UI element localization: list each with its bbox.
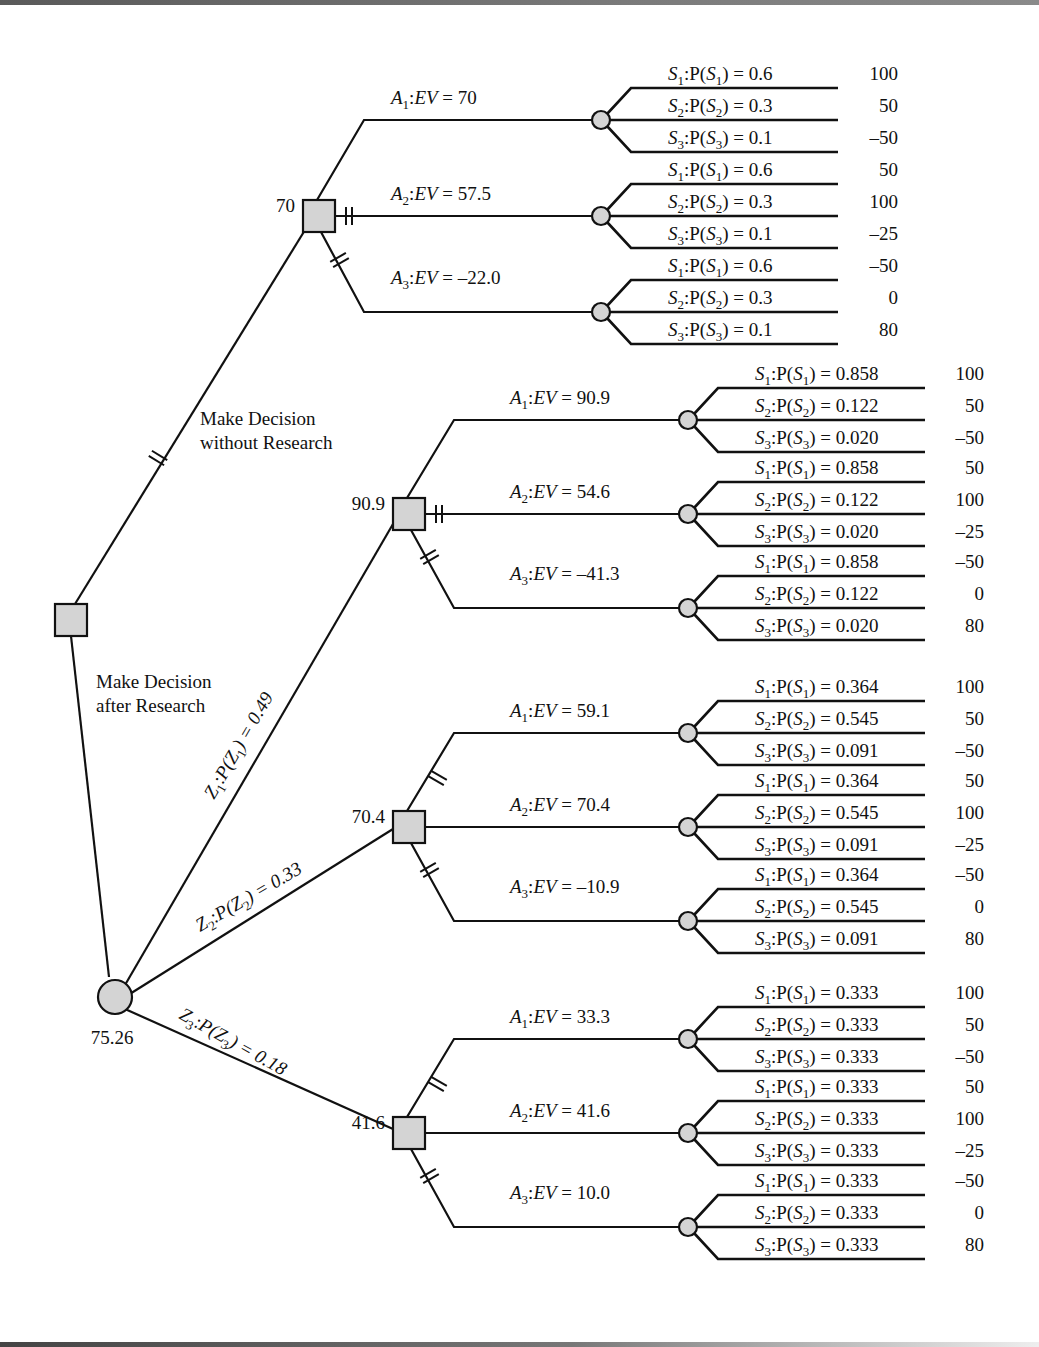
state-probability-label: S2:P(S2) = 0.333 [755,1108,878,1133]
node-value-label: 70 [276,195,295,216]
node-value-label: 41.6 [352,1112,385,1133]
alternative-ev-label: A3:EV = –41.3 [508,563,620,588]
alternative-ev-label: A1:EV = 59.1 [508,700,610,725]
state-probability-label: S1:P(S1) = 0.333 [755,982,878,1007]
state-chance-node [679,411,697,429]
payoff-value: –25 [955,834,985,855]
node-value-label: 90.9 [352,493,385,514]
alternative-ev-label: A2:EV = 57.5 [389,183,491,208]
state-probability-label: S3:P(S3) = 0.091 [755,928,878,953]
indication-branch [125,829,393,997]
branch-label-after-research: after Research [96,695,206,716]
state-chance-node [679,1030,697,1048]
payoff-value: 80 [965,928,984,949]
payoff-value: –50 [955,427,985,448]
state-probability-label: S2:P(S2) = 0.333 [755,1202,878,1227]
state-probability-label: S3:P(S3) = 0.333 [755,1046,878,1071]
payoff-value: 100 [870,63,899,84]
payoff-value: –50 [955,864,985,885]
state-chance-node [679,1124,697,1142]
payoff-value: 0 [975,896,985,917]
root-decision-node [55,604,87,636]
state-probability-label: S1:P(S1) = 0.364 [755,770,879,795]
payoff-value: 50 [879,95,898,116]
state-probability-label: S1:P(S1) = 0.364 [755,864,879,889]
state-probability-label: S3:P(S3) = 0.1 [668,223,772,248]
state-chance-node [679,724,697,742]
state-probability-label: S1:P(S1) = 0.333 [755,1170,878,1195]
indication-branch [125,524,393,985]
payoff-value: 80 [965,615,984,636]
decision-node [393,498,425,530]
payoff-value: 100 [956,489,985,510]
payoff-value: –50 [869,127,899,148]
node-value-label: 70.4 [352,806,386,827]
payoff-value: 100 [870,191,899,212]
state-probability-label: S2:P(S2) = 0.3 [668,191,772,216]
payoff-value: –50 [955,1046,985,1067]
alternative-ev-label: A3:EV = 10.0 [508,1182,610,1207]
payoff-value: 50 [965,770,984,791]
decision-tree: Make Decisionwithout ResearchA1:EV = 70S… [0,0,1039,1347]
state-probability-label: S1:P(S1) = 0.6 [668,159,772,184]
payoff-value: 0 [889,287,899,308]
state-chance-node [679,1218,697,1236]
payoff-value: –50 [955,740,985,761]
state-probability-label: S3:P(S3) = 0.333 [755,1140,878,1165]
state-chance-node [592,303,610,321]
state-chance-node [592,207,610,225]
state-probability-label: S1:P(S1) = 0.858 [755,551,878,576]
alternative-ev-label: A2:EV = 54.6 [508,481,610,506]
state-chance-node [679,599,697,617]
branch-label-without-research: without Research [200,432,333,453]
decision-node [393,811,425,843]
state-probability-label: S2:P(S2) = 0.122 [755,395,878,420]
state-probability-label: S3:P(S3) = 0.020 [755,427,878,452]
alternative-ev-label: A2:EV = 70.4 [508,794,611,819]
alternative-ev-label: A3:EV = –10.9 [508,876,620,901]
state-probability-label: S2:P(S2) = 0.122 [755,583,878,608]
state-probability-label: S1:P(S1) = 0.858 [755,363,878,388]
payoff-value: 50 [965,708,984,729]
state-probability-label: S3:P(S3) = 0.091 [755,834,878,859]
payoff-value: –50 [955,551,985,572]
decision-node [303,200,335,232]
state-probability-label: S3:P(S3) = 0.020 [755,521,878,546]
payoff-value: –50 [869,255,899,276]
payoff-value: 0 [975,583,985,604]
payoff-value: 100 [956,363,985,384]
alternative-ev-label: A3:EV = –22.0 [389,267,501,292]
state-probability-label: S3:P(S3) = 0.1 [668,127,772,152]
payoff-value: 100 [956,982,985,1003]
state-chance-node [592,111,610,129]
state-probability-label: S2:P(S2) = 0.545 [755,708,878,733]
payoff-value: 50 [965,395,984,416]
indication-probability-label: Z2:P(Z2) = 0.33 [192,858,308,939]
payoff-value: 100 [956,802,985,823]
tree-labels: Make Decisionwithout ResearchA1:EV = 70S… [91,63,984,1259]
decision-node [393,1117,425,1149]
payoff-value: 0 [975,1202,985,1223]
alternative-ev-label: A1:EV = 70 [389,87,477,112]
state-probability-label: S2:P(S2) = 0.122 [755,489,878,514]
alternative-ev-label: A2:EV = 41.6 [508,1100,610,1125]
payoff-value: 50 [965,1076,984,1097]
state-probability-label: S3:P(S3) = 0.020 [755,615,878,640]
payoff-value: –50 [955,1170,985,1191]
payoff-value: 100 [956,1108,985,1129]
payoff-value: 50 [965,1014,984,1035]
state-probability-label: S1:P(S1) = 0.6 [668,63,772,88]
state-chance-node [679,912,697,930]
payoff-value: –25 [869,223,899,244]
state-probability-label: S1:P(S1) = 0.6 [668,255,772,280]
state-probability-label: S3:P(S3) = 0.091 [755,740,878,765]
state-probability-label: S2:P(S2) = 0.3 [668,287,772,312]
payoff-value: –25 [955,521,985,542]
payoff-value: 80 [879,319,898,340]
indication-probability-label: Z3:P(Z3) = 0.18 [174,1003,291,1083]
state-chance-node [679,818,697,836]
state-probability-label: S2:P(S2) = 0.545 [755,896,878,921]
research-chance-node [98,980,132,1014]
state-chance-node [679,505,697,523]
payoff-value: 80 [965,1234,984,1255]
